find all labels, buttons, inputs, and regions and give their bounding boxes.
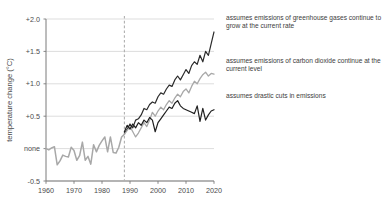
annotation-high-emissions: assumes emissions of greenhouse gases co… (226, 14, 384, 31)
annotation-layer: assumes emissions of greenhouse gases co… (0, 0, 386, 211)
temperature-projection-figure: -0.5none+0.5+1.0+1.5+2.0 196019701980199… (0, 0, 386, 211)
annotation-constant-co2: assumes emissions of carbon dioxide cont… (226, 57, 384, 74)
annotation-drastic-cuts: assumes drastic cuts in emissions (226, 92, 384, 100)
